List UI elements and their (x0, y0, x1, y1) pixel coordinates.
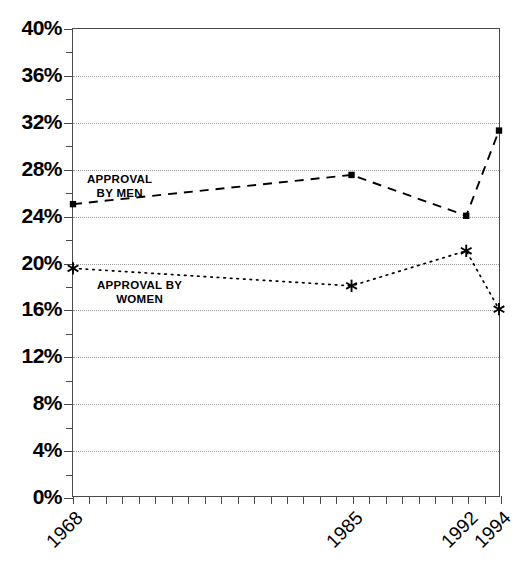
x-axis-tick (188, 496, 189, 504)
x-axis-tick (122, 496, 123, 504)
y-axis-tick-major (64, 404, 73, 405)
data-point-marker-square (463, 213, 469, 219)
x-axis-tick (402, 496, 403, 504)
y-axis-tick-minor (66, 287, 73, 288)
y-axis-tick-major (64, 29, 73, 30)
y-axis-tick-minor (66, 475, 73, 476)
y-axis-tick-label: 40% (0, 17, 62, 38)
y-axis-tick-minor (66, 193, 73, 194)
series-annotation-men: APPROVAL BY MEN (87, 173, 152, 200)
y-axis-tick-major (64, 217, 73, 218)
y-axis-tick-label: 12% (0, 345, 62, 366)
y-axis-tick-minor (66, 240, 73, 241)
y-axis-tick-minor (66, 334, 73, 335)
y-axis-tick-minor (66, 52, 73, 53)
y-axis-tick-label: 24% (0, 205, 62, 226)
y-axis-tick-label: 4% (0, 439, 62, 460)
y-axis-tick-minor (66, 146, 73, 147)
x-axis-tick (435, 496, 436, 504)
x-axis-tick (155, 496, 156, 504)
y-axis-tick-major (64, 76, 73, 77)
x-axis-tick (221, 496, 222, 504)
x-axis-tick (287, 496, 288, 504)
y-axis-tick-major (64, 310, 73, 311)
x-axis-tick (452, 496, 453, 504)
y-axis-tick-major (64, 357, 73, 358)
x-axis-tick (386, 496, 387, 504)
y-axis-tick-label: 0% (0, 486, 62, 507)
x-axis-tick (468, 496, 469, 504)
y-axis-tick-label: 20% (0, 252, 62, 273)
x-axis-tick (89, 496, 90, 504)
y-axis-tick-label: 32% (0, 111, 62, 132)
x-axis-tick (419, 496, 420, 504)
series-annotation-women: APPROVAL BY WOMEN (97, 279, 182, 306)
y-axis-tick-label: 28% (0, 158, 62, 179)
data-point-marker-asterisk (461, 245, 472, 257)
data-point-marker-asterisk (494, 303, 505, 315)
x-axis-tick (172, 496, 173, 504)
chart-container: APPROVAL BY MEN APPROVAL BY WOMEN 0%4%8%… (0, 0, 528, 568)
y-axis-tick-minor (66, 381, 73, 382)
x-axis-tick (485, 496, 486, 504)
y-axis-tick-label: 16% (0, 298, 62, 319)
x-axis-tick (369, 496, 370, 504)
x-axis-tick (271, 496, 272, 504)
plot-area: APPROVAL BY MEN APPROVAL BY WOMEN (72, 28, 500, 497)
x-axis-tick (320, 496, 321, 504)
y-axis-tick-major (64, 170, 73, 171)
x-axis-tick (205, 496, 206, 504)
x-axis-tick (336, 496, 337, 504)
y-axis-tick-major (64, 123, 73, 124)
x-axis-tick (353, 496, 354, 504)
x-axis-tick (139, 496, 140, 504)
x-axis-tick (73, 496, 74, 504)
data-point-marker-square (70, 201, 76, 207)
y-axis-tick-label: 8% (0, 392, 62, 413)
y-axis-tick-minor (66, 99, 73, 100)
x-axis-tick (106, 496, 107, 504)
y-axis-tick-label: 36% (0, 64, 62, 85)
y-axis-tick-major (64, 264, 73, 265)
x-axis-tick-label: 1985 (281, 507, 367, 568)
x-axis-tick-label: 1968 (1, 507, 87, 568)
series-layer (73, 29, 499, 496)
x-axis-tick (238, 496, 239, 504)
x-axis-tick (501, 496, 502, 504)
data-point-marker-square (496, 127, 502, 133)
y-axis-tick-minor (66, 428, 73, 429)
y-axis-tick-major (64, 451, 73, 452)
y-axis-tick-major (64, 498, 73, 499)
x-axis-tick (303, 496, 304, 504)
data-point-marker-square (348, 172, 354, 178)
x-axis-tick (254, 496, 255, 504)
